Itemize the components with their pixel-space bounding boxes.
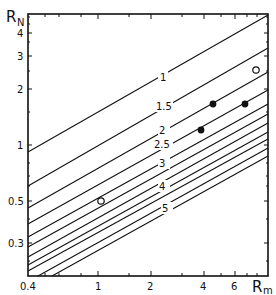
curve-label-2-5: 2.5	[154, 139, 170, 150]
y-tick-label: 2	[17, 84, 23, 95]
curve-5	[28, 139, 268, 271]
y-tick-label: 0.3	[8, 238, 24, 249]
curve-4	[28, 123, 268, 257]
curve-1-5	[28, 48, 268, 186]
curve-unlabeled-a	[28, 114, 268, 247]
curve-label-4: 4	[159, 181, 165, 192]
y-tick-label: 1	[17, 140, 23, 151]
filled-point	[242, 101, 249, 108]
x-tick-label: 4	[200, 281, 206, 292]
open-point	[253, 67, 259, 73]
x-ticks	[45, 14, 257, 276]
x-tick-label: 0.4	[20, 281, 36, 292]
curve-1	[28, 15, 268, 152]
x-axis-title-subscript: m	[263, 285, 273, 295]
curve-3	[28, 104, 268, 237]
y-tick-label: 0.5	[8, 196, 24, 207]
x-tick-label: 1	[95, 281, 101, 292]
x-tick-label: 2	[147, 281, 153, 292]
curve-unlabeled-b	[28, 132, 268, 265]
y-ticks	[28, 17, 268, 261]
y-tick-label: 4	[17, 28, 23, 39]
curve-group	[28, 15, 268, 276]
open-point	[98, 198, 104, 204]
chart: 1 1.5 2 2.5 3 4 5	[0, 0, 276, 295]
curve-2	[28, 72, 268, 208]
curve-label-1-5: 1.5	[156, 101, 172, 112]
x-tick-label: 6	[231, 281, 237, 292]
filled-point	[198, 127, 205, 134]
curve-2-5	[28, 90, 268, 224]
y-tick-label: 3	[17, 51, 23, 62]
curve-label-3: 3	[159, 158, 165, 169]
curve-label-1: 1	[160, 72, 166, 83]
filled-point	[210, 101, 217, 108]
x-axis-title: R	[252, 278, 262, 295]
y-axis-title-subscript: N	[17, 17, 24, 28]
curve-label-2: 2	[159, 125, 165, 136]
curve-label-5: 5	[162, 203, 168, 214]
y-axis-title: R	[6, 8, 16, 26]
